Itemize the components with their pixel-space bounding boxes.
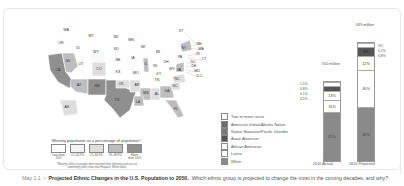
- bar-2050: 8% 12% 30% 46%: [357, 42, 375, 162]
- state-label: NH: [196, 42, 201, 46]
- small-label: 0.2%: [378, 49, 386, 53]
- state-label: TX: [115, 98, 120, 102]
- state-label: NC: [174, 77, 179, 81]
- state-label: SC: [173, 84, 178, 88]
- segment-white: 46%: [358, 107, 374, 161]
- x-label-2010: 2010 Actual: [313, 162, 333, 166]
- state-label: NE: [116, 58, 121, 62]
- state-label: MT: [88, 34, 93, 38]
- bar-total-2010: 310 million: [319, 62, 343, 66]
- legend-bin: 15-24.9%: [71, 144, 84, 161]
- state-label: OH: [163, 60, 168, 64]
- state-label: MO: [133, 71, 139, 75]
- segment-african-american: 12%: [358, 56, 374, 70]
- state-label: UT: [79, 62, 84, 66]
- state-label: SD: [114, 47, 119, 51]
- legend-bin: 25-34.9%: [90, 144, 103, 161]
- small-label: 1.5%: [300, 82, 308, 86]
- state-label: MN: [128, 38, 134, 42]
- small-label: 0.1%: [300, 92, 308, 96]
- segment-white: 65%: [324, 112, 340, 161]
- legend-item: Asian American: [221, 135, 288, 142]
- segment-african-american: 13%: [324, 91, 340, 100]
- state-label: AL: [155, 92, 159, 96]
- legend-item: African American: [221, 143, 288, 150]
- state-label: NY: [182, 46, 187, 50]
- state-label: MI: [156, 50, 160, 54]
- small-label: 3%: [378, 44, 383, 48]
- state-label: MD: [194, 69, 200, 73]
- state-label: OK: [118, 82, 123, 86]
- state-label: DE: [192, 64, 197, 68]
- caption-question: Which ethnic group is projected to chang…: [192, 175, 388, 181]
- map-legend-title: Minority population as a percentage of p…: [52, 138, 141, 143]
- state-label: CA: [56, 68, 61, 72]
- segment-asian: 8%: [358, 47, 374, 56]
- state-label: FL: [174, 107, 178, 111]
- state-label: PA: [178, 55, 183, 59]
- legend-bin: Less than 15%: [52, 144, 65, 161]
- state-label: AR: [135, 83, 140, 87]
- state-label: KY: [157, 72, 162, 76]
- state-label: VT: [179, 29, 184, 33]
- state-label: TN: [155, 78, 160, 82]
- state-label: ID: [76, 46, 80, 50]
- state-label: CO: [96, 67, 101, 71]
- small-label: 4.5%: [300, 97, 308, 101]
- state-label: IA: [131, 56, 134, 60]
- small-label: 0.8%: [378, 54, 386, 58]
- state-label: ND: [113, 35, 118, 39]
- map-number: Map 1.1: [22, 175, 41, 181]
- legend-item: White: [221, 157, 288, 164]
- legend-bin: 35-49.9%: [109, 144, 122, 161]
- divider: [400, 14, 401, 174]
- legend-item: Two or more races: [221, 113, 288, 120]
- state-label: AK: [65, 105, 70, 109]
- caption-title: Projected Ethnic Changes in the U.S. Pop…: [49, 175, 189, 181]
- state-label: RI: [196, 52, 200, 56]
- state-label: WY: [93, 50, 99, 54]
- state-label: MA: [198, 47, 203, 51]
- state-label: MS: [143, 91, 148, 95]
- state-label: AZ: [77, 83, 82, 87]
- state-label: LA: [136, 100, 140, 104]
- state-label: GA: [164, 89, 169, 93]
- legend-item: Latino: [221, 150, 288, 157]
- state-label: VA: [177, 68, 182, 72]
- ethnic-legend: Two or more races American Indian/Alaska…: [221, 113, 288, 165]
- state-label: NM: [94, 84, 100, 88]
- state-label: CT: [202, 57, 207, 61]
- state-label: NV: [66, 59, 71, 63]
- bar-2010: 13% 16% 65%: [323, 81, 341, 162]
- state-label: WA: [63, 28, 69, 32]
- state-label: OR: [58, 41, 63, 45]
- map-legend: Less than 15% 15-24.9% 25-34.9% 35-49.9%…: [52, 144, 141, 161]
- state-label: D.C.: [196, 74, 203, 78]
- legend-item: Native Hawaiian/Pacific Islander: [221, 128, 288, 135]
- legend-bin: More than 50%: [128, 144, 141, 161]
- legend-item: American Indian/Alaska Native: [221, 120, 288, 127]
- x-label-2050: 2050 Projected: [349, 162, 375, 166]
- state-label: WV: [169, 67, 175, 71]
- state-label: KS: [116, 70, 121, 74]
- bar-total-2050: 439 million: [353, 23, 377, 27]
- figure-caption: Map 1.1•Projected Ethnic Changes in the …: [22, 175, 388, 181]
- segment-latino: 30%: [358, 70, 374, 107]
- state-label: IN: [153, 64, 157, 68]
- small-label: 0.8%: [300, 87, 308, 91]
- caption-separator: •: [44, 175, 46, 181]
- segment-latino: 16%: [324, 100, 340, 112]
- map-legend-note: *Minority refers to people who reported …: [52, 163, 142, 169]
- state-label: WI: [141, 45, 145, 49]
- state-label: IL: [145, 62, 148, 66]
